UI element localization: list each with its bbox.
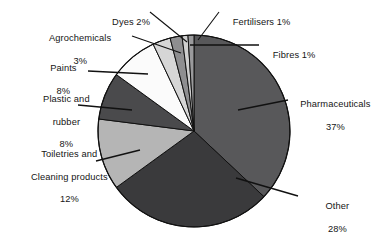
slice-label-fertilisers: Fertilisers 1%: [222, 6, 332, 40]
slice-label-toiletries-value: 12%: [60, 194, 79, 204]
slice-label-other: Other 28%: [300, 190, 364, 237]
pie-chart: Pharmaceuticals 37%Other 28%Toiletries a…: [0, 0, 379, 237]
leader-line-dyes: [150, 12, 187, 42]
slice-label-toiletries: Toiletries and Cleaning products 12%: [2, 138, 126, 216]
slice-label-pharmaceuticals-name: Pharmaceuticals: [300, 99, 370, 109]
slice-label-pharmaceuticals-value: 37%: [326, 122, 345, 132]
slice-label-plastic-rubber-name-2: rubber: [53, 117, 80, 127]
slice-label-other-value: 28%: [328, 224, 347, 234]
slice-label-paints-name: Paints: [50, 63, 76, 73]
slice-label-fibres: Fibres 1%: [262, 39, 362, 73]
slice-label-fertilisers-text: Fertilisers 1%: [233, 17, 291, 27]
slice-label-toiletries-name-1: Toiletries and: [41, 149, 97, 159]
slice-label-other-name: Other: [325, 201, 349, 211]
slice-label-toiletries-name-2: Cleaning products: [31, 172, 108, 182]
slice-label-plastic-rubber-name-1: Plastic and: [43, 94, 90, 104]
slice-label-fibres-text: Fibres 1%: [273, 50, 316, 60]
slice-label-agrochemicals-name: Agrochemicals: [49, 33, 111, 43]
slice-label-pharmaceuticals: Pharmaceuticals 37%: [282, 88, 378, 144]
